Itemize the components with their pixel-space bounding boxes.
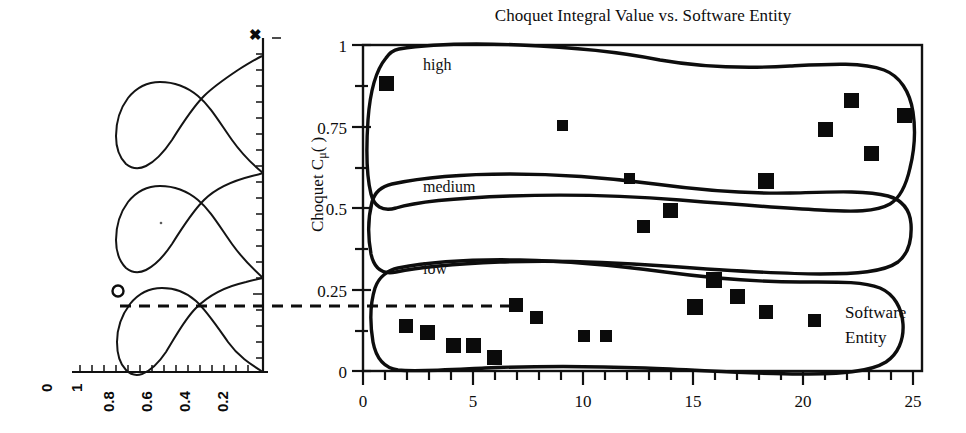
data-point <box>466 338 481 353</box>
figure-canvas: Choquet Integral Value vs. Software Enti… <box>0 0 966 433</box>
data-point <box>487 350 502 365</box>
x-tick-label-0: 0 <box>359 392 368 411</box>
plot-frame <box>363 45 922 371</box>
data-point <box>663 203 678 218</box>
x-tick-label-5: 5 <box>469 392 478 411</box>
data-point <box>730 289 745 304</box>
data-point <box>420 325 435 340</box>
data-point <box>446 338 461 353</box>
series-high-markers <box>379 76 912 161</box>
y-tick-label-025: 0.25 <box>317 282 347 301</box>
scatter-plot: 1 0.75 0.5 0.25 0 <box>0 0 966 433</box>
cluster-label-high: high <box>423 56 451 74</box>
data-point <box>399 319 413 333</box>
data-point <box>530 311 543 324</box>
data-point <box>759 305 773 319</box>
x-tick-label-10: 10 <box>575 392 592 411</box>
cluster-label-low: low <box>423 260 447 277</box>
cluster-label-medium: medium <box>423 178 476 195</box>
x-tick-label-20: 20 <box>795 392 812 411</box>
x-tick-label-25: 25 <box>905 392 922 411</box>
series-low-markers <box>399 272 821 365</box>
y-axis-ticks <box>352 45 371 371</box>
data-point <box>758 173 774 189</box>
x-axis-title-line1: Software <box>845 303 906 322</box>
y-tick-label-075: 0.75 <box>317 119 347 138</box>
data-point <box>706 272 722 288</box>
data-point <box>687 299 703 315</box>
data-point <box>864 146 879 161</box>
x-axis-title-line2: Entity <box>845 328 887 347</box>
data-point <box>637 220 650 233</box>
data-point <box>844 93 859 108</box>
data-point <box>808 314 821 327</box>
data-point <box>624 173 635 184</box>
data-point <box>578 330 590 342</box>
data-point <box>509 298 523 312</box>
y-tick-label-05: 0.5 <box>326 200 347 219</box>
y-tick-label-0: 0 <box>339 363 348 382</box>
data-point <box>897 108 912 123</box>
data-point <box>379 76 394 91</box>
data-point <box>818 122 833 137</box>
y-tick-label-1: 1 <box>339 37 348 56</box>
data-point <box>600 330 612 342</box>
x-tick-label-15: 15 <box>685 392 702 411</box>
cluster-hull-low <box>371 260 903 374</box>
data-point <box>557 120 568 131</box>
